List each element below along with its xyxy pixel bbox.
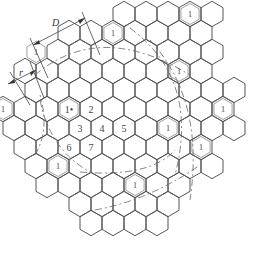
hex-cell — [201, 1, 223, 26]
cochannel-cell-label: 1 — [1, 104, 6, 114]
hex-cell — [14, 58, 36, 83]
hex-cell — [179, 39, 201, 64]
hex-cell — [25, 153, 47, 178]
hex-cell — [113, 1, 135, 26]
hex-cell — [69, 39, 91, 64]
hex-cell — [124, 20, 146, 45]
hex-cell — [135, 77, 157, 102]
hex-cell — [58, 58, 80, 83]
hex-cell — [146, 96, 168, 121]
hex-cell — [25, 115, 47, 140]
hex-cell — [157, 1, 179, 26]
hex-cell — [102, 96, 124, 121]
hex-cell — [124, 134, 146, 159]
hex-cell — [25, 77, 47, 102]
cochannel-cell-label: 1 — [111, 28, 116, 38]
hex-cell — [179, 153, 201, 178]
hex-cell — [124, 96, 146, 121]
hex-cell — [58, 172, 80, 197]
hex-cell — [102, 58, 124, 83]
hex-cell — [223, 77, 245, 102]
cochannel-cell-label: 1 — [34, 47, 39, 57]
cochannel-cell-label: 1 — [177, 66, 182, 76]
cochannel-cell-label: 1 — [188, 9, 193, 19]
hex-cell — [135, 115, 157, 140]
hex-cell — [102, 172, 124, 197]
hex-cell — [113, 39, 135, 64]
hex-cell — [190, 20, 212, 45]
cluster-cell-label: 4 — [100, 123, 105, 134]
hex-cell — [113, 77, 135, 102]
hex-cell — [91, 39, 113, 64]
hex-cell — [201, 153, 223, 178]
cluster-cell-label: 5 — [122, 123, 127, 134]
hex-cell — [223, 115, 245, 140]
cluster-cell-label: 2 — [89, 104, 94, 115]
hex-cell — [36, 96, 58, 121]
hex-cell — [69, 77, 91, 102]
hex-cell — [179, 77, 201, 102]
hex-cell — [135, 1, 157, 26]
hex-cell — [201, 115, 223, 140]
hex-cell — [36, 172, 58, 197]
hex-cell — [47, 77, 69, 102]
hex-cell — [91, 77, 113, 102]
hex-cell — [146, 58, 168, 83]
cochannel-cell-label: 1 — [199, 142, 204, 152]
cluster-cell-label: 1• — [65, 104, 74, 115]
hex-cell — [157, 191, 179, 216]
hex-cell — [102, 134, 124, 159]
cochannel-cell-label: 1 — [166, 123, 171, 133]
hex-cell — [201, 77, 223, 102]
hex-cell — [47, 39, 69, 64]
hex-cell — [168, 96, 190, 121]
hex-cell — [168, 20, 190, 45]
hex-cell — [113, 153, 135, 178]
reuse-arc — [80, 150, 175, 173]
hex-grid — [0, 1, 245, 235]
dimension-annotations: D r — [8, 12, 100, 105]
dimension-label-d: D — [51, 17, 60, 28]
hex-cell — [190, 96, 212, 121]
hex-cell — [69, 191, 91, 216]
hex-cell — [146, 134, 168, 159]
hex-cell — [80, 58, 102, 83]
hex-cell — [14, 96, 36, 121]
dimension-label-r: r — [19, 67, 23, 78]
hex-cell — [124, 58, 146, 83]
hex-cell — [135, 153, 157, 178]
hex-cell — [179, 115, 201, 140]
hex-cell — [113, 191, 135, 216]
reuse-arc — [130, 28, 182, 175]
hex-cell — [3, 115, 25, 140]
hex-cell — [146, 210, 168, 235]
hex-cell — [47, 115, 69, 140]
hex-cell — [190, 58, 212, 83]
cochannel-cell-label: 1 — [133, 180, 138, 190]
hex-cell — [201, 39, 223, 64]
hex-cell — [14, 134, 36, 159]
hex-cell — [58, 20, 80, 45]
hex-cell-diagram: D r 11111111111•234567 — [0, 0, 255, 254]
cochannel-cell-label: 1 — [56, 161, 61, 171]
arrow-icon — [8, 79, 15, 84]
cluster-cell-label: 3 — [78, 123, 83, 134]
hex-cell — [80, 172, 102, 197]
hex-cell — [146, 20, 168, 45]
hex-cell — [168, 172, 190, 197]
hex-cell — [91, 153, 113, 178]
hex-cell — [157, 153, 179, 178]
hex-cell — [124, 210, 146, 235]
hex-cell — [91, 191, 113, 216]
reuse-arc — [95, 165, 200, 210]
cluster-cell-label: 6 — [67, 142, 72, 153]
hex-cell — [80, 210, 102, 235]
hex-cell — [102, 210, 124, 235]
arrow-icon — [78, 18, 85, 24]
hex-cell — [135, 191, 157, 216]
cluster-cell-label: 7 — [89, 142, 94, 153]
cochannel-cell-label: 1 — [221, 104, 226, 114]
